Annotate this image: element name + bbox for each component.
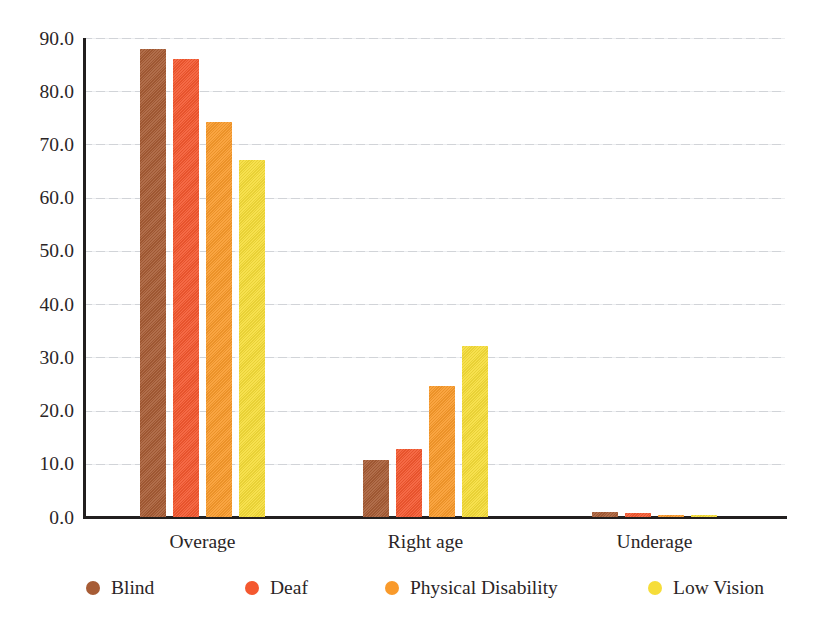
legend-item[interactable]: Deaf	[245, 578, 308, 598]
legend: BlindDeafPhysical DisabilityLow Vision	[0, 578, 818, 610]
x-tick-label: Right age	[303, 532, 548, 552]
y-tick-label: 30.0	[39, 348, 74, 368]
legend-item[interactable]: Low Vision	[648, 578, 764, 598]
bar-texture	[625, 513, 651, 517]
bar-group	[592, 38, 717, 517]
bars-layer	[83, 38, 787, 517]
bar-texture	[592, 512, 618, 517]
bar[interactable]	[173, 59, 199, 517]
bar-texture	[658, 515, 684, 517]
legend-swatch-circle-icon	[86, 581, 100, 595]
bar[interactable]	[625, 513, 651, 517]
legend-item[interactable]: Physical Disability	[385, 578, 558, 598]
y-tick-label: 70.0	[39, 135, 74, 155]
legend-swatch-circle-icon	[385, 581, 399, 595]
bar[interactable]	[462, 346, 488, 517]
legend-label: Deaf	[270, 578, 308, 598]
bar-group	[363, 38, 488, 517]
legend-swatch-circle-icon	[648, 581, 662, 595]
y-tick-label: 60.0	[39, 188, 74, 208]
bar[interactable]	[429, 386, 455, 517]
bar-texture	[462, 346, 488, 517]
y-tick-label: 80.0	[39, 82, 74, 102]
bar[interactable]	[396, 449, 422, 517]
y-tick-label: 20.0	[39, 401, 74, 421]
legend-label: Physical Disability	[410, 578, 558, 598]
x-tick-label: Underage	[532, 532, 777, 552]
bar[interactable]	[206, 122, 232, 517]
bar-texture	[239, 160, 265, 517]
bar[interactable]	[691, 515, 717, 517]
x-tick-label: Overage	[80, 532, 325, 552]
bar-texture	[140, 49, 166, 517]
legend-item[interactable]: Blind	[86, 578, 154, 598]
bar[interactable]	[658, 515, 684, 517]
bar-texture	[363, 460, 389, 517]
legend-label: Low Vision	[673, 578, 764, 598]
y-tick-label: 10.0	[39, 454, 74, 474]
bar[interactable]	[592, 512, 618, 517]
y-tick-label: 50.0	[39, 241, 74, 261]
bar-chart: 0.010.020.030.040.050.060.070.080.090.0 …	[0, 0, 818, 642]
bar-texture	[173, 59, 199, 517]
y-tick-label: 90.0	[39, 29, 74, 49]
legend-swatch-circle-icon	[245, 581, 259, 595]
bar[interactable]	[140, 49, 166, 517]
y-tick-label: 40.0	[39, 295, 74, 315]
bar-texture	[396, 449, 422, 517]
bar-group	[140, 38, 265, 517]
y-tick-label: 0.0	[49, 508, 74, 528]
bar[interactable]	[363, 460, 389, 517]
legend-label: Blind	[111, 578, 154, 598]
bar[interactable]	[239, 160, 265, 517]
bar-texture	[429, 386, 455, 517]
bar-texture	[691, 515, 717, 517]
bar-texture	[206, 122, 232, 517]
